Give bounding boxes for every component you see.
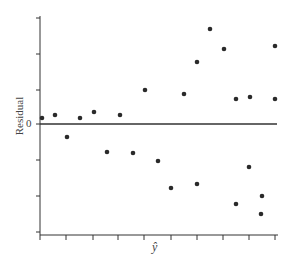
data-point <box>195 182 200 187</box>
data-point <box>248 95 253 100</box>
data-point <box>260 194 265 199</box>
data-point <box>131 151 136 156</box>
data-point <box>195 60 200 65</box>
data-point <box>105 150 110 155</box>
data-point <box>118 113 123 118</box>
data-point <box>234 97 239 102</box>
data-point <box>182 92 187 97</box>
data-point <box>65 135 70 140</box>
data-point <box>247 165 252 170</box>
y-tick-label-zero: 0 <box>26 117 32 129</box>
residual-plot <box>0 0 293 268</box>
data-point <box>273 44 278 49</box>
data-point <box>273 97 278 102</box>
data-point <box>156 159 161 164</box>
axes <box>36 16 278 240</box>
data-point <box>208 27 213 32</box>
y-axis-label: Residual <box>13 91 25 141</box>
x-axis-label: ŷ <box>152 240 157 255</box>
data-point <box>143 88 148 93</box>
data-point <box>40 116 45 121</box>
data-point <box>222 47 227 52</box>
data-points <box>40 27 278 217</box>
data-point <box>92 110 97 115</box>
data-point <box>53 113 58 118</box>
data-point <box>259 212 264 217</box>
data-point <box>169 186 174 191</box>
data-point <box>234 202 239 207</box>
data-point <box>78 116 83 121</box>
